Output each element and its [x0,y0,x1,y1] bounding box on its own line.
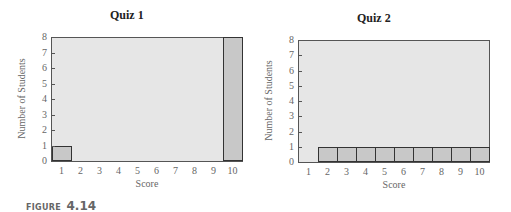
y-tick-mark [51,53,55,54]
x-tick-label: 10 [470,167,490,177]
y-tick-mark [298,55,302,56]
plot-area [51,37,243,162]
bar-score-6 [394,147,414,162]
y-tick-label: 4 [37,94,47,104]
y-tick-mark [51,84,55,85]
bar-score-9 [451,147,471,162]
bar-score-4 [356,147,376,162]
x-tick-label: 10 [223,166,243,176]
x-tick-label: 3 [90,166,110,176]
y-tick-mark [298,101,302,102]
y-tick-mark [298,116,302,117]
y-tick-label: 5 [284,81,294,91]
y-tick-label: 7 [37,48,47,58]
y-tick-mark [51,68,55,69]
y-tick-mark [51,130,55,131]
bar-score-2 [318,147,338,162]
bar-score-10 [470,147,490,162]
bar-score-7 [413,147,433,162]
x-tick-label: 2 [318,167,338,177]
y-tick-mark [51,161,55,162]
y-tick-label: 3 [284,111,294,121]
bar-score-3 [337,147,357,162]
chart-title: Quiz 2 [357,11,391,26]
x-tick-label: 1 [52,166,72,176]
x-tick-label: 9 [204,166,224,176]
y-tick-mark [298,147,302,148]
bar-score-10 [223,37,243,161]
bar-score-5 [375,147,395,162]
figure-caption: FIGURE 4.14 [26,195,96,212]
y-tick-label: 3 [37,110,47,120]
y-tick-label: 6 [37,63,47,73]
y-tick-mark [298,162,302,163]
y-tick-label: 1 [37,141,47,151]
x-tick-label: 4 [356,167,376,177]
x-tick-label: 6 [394,167,414,177]
chart-title: Quiz 1 [110,8,144,23]
y-axis-label: Number of Students [263,45,274,155]
x-tick-label: 7 [413,167,433,177]
figure-caption-number: 4.14 [67,199,97,212]
x-tick-label: 5 [375,167,395,177]
x-tick-label: 2 [71,166,91,176]
y-tick-label: 2 [37,125,47,135]
x-axis-label: Score [117,178,177,189]
x-tick-label: 9 [451,167,471,177]
x-tick-label: 8 [432,167,452,177]
y-tick-label: 8 [37,32,47,42]
y-tick-label: 5 [37,79,47,89]
x-tick-label: 1 [299,167,319,177]
x-tick-label: 4 [109,166,129,176]
x-axis-label: Score [364,179,424,190]
y-tick-mark [298,132,302,133]
x-tick-label: 8 [185,166,205,176]
y-tick-label: 8 [284,35,294,45]
y-tick-mark [51,99,55,100]
figure-caption-word: FIGURE [26,203,61,212]
y-tick-mark [298,71,302,72]
y-tick-mark [298,86,302,87]
bar-score-8 [432,147,452,162]
y-tick-mark [51,115,55,116]
y-tick-mark [298,40,302,41]
y-tick-label: 0 [37,156,47,166]
y-tick-label: 6 [284,66,294,76]
y-tick-label: 4 [284,96,294,106]
plot-area [298,40,490,163]
y-tick-label: 2 [284,127,294,137]
x-tick-label: 7 [166,166,186,176]
x-tick-label: 5 [128,166,148,176]
y-tick-mark [51,146,55,147]
bar-score-1 [52,146,72,162]
y-tick-label: 7 [284,50,294,60]
x-tick-label: 3 [337,167,357,177]
y-tick-label: 0 [284,157,294,167]
x-tick-label: 6 [147,166,167,176]
y-axis-label: Number of Students [16,43,27,153]
y-tick-mark [51,37,55,38]
y-tick-label: 1 [284,142,294,152]
